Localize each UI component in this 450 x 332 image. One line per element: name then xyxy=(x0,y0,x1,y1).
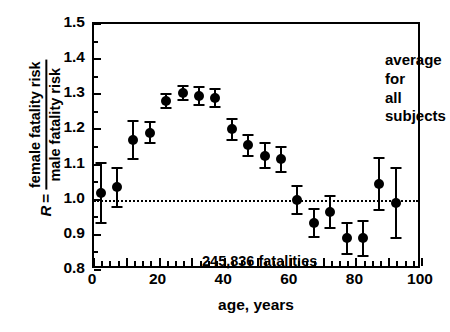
x-tick-minor xyxy=(101,261,103,266)
y-tick-label: 0.9 xyxy=(25,225,85,241)
error-bar-cap-upper xyxy=(161,93,172,95)
y-tick-minor xyxy=(94,181,98,183)
annotation-average-line2: all subjects xyxy=(385,89,446,127)
error-bar-cap-upper xyxy=(390,167,401,169)
data-point-marker xyxy=(276,154,286,164)
x-tick-minor xyxy=(175,261,177,266)
error-bar-cap-lower xyxy=(292,213,303,215)
x-tick-minor xyxy=(150,261,152,266)
data-point-marker xyxy=(210,93,220,103)
plot-area xyxy=(94,24,418,266)
x-tick-minor xyxy=(142,261,144,266)
error-bar-cap-lower xyxy=(177,99,188,101)
y-tick-label: 1.4 xyxy=(25,49,85,65)
y-axis-label-symbol: R xyxy=(38,205,55,216)
x-tick-major xyxy=(191,258,193,266)
x-tick-minor xyxy=(396,261,398,266)
error-bar-cap-lower xyxy=(275,171,286,173)
y-tick-minor xyxy=(94,76,98,78)
error-bar-cap-lower xyxy=(390,237,401,239)
x-tick-minor xyxy=(183,261,185,266)
annotation-average-subjects: average for all subjects xyxy=(385,51,446,126)
x-tick-label: 60 xyxy=(259,271,319,287)
error-bar-cap-upper xyxy=(128,120,139,122)
y-tick-minor xyxy=(94,111,98,113)
error-bar-cap-upper xyxy=(357,220,368,222)
error-bar-cap-lower xyxy=(161,107,172,109)
x-tick-minor xyxy=(339,261,341,266)
y-tick-major xyxy=(94,128,101,130)
data-point-marker xyxy=(309,218,319,228)
error-bar-cap-upper xyxy=(95,162,106,164)
x-tick-minor xyxy=(347,261,349,266)
y-tick-major xyxy=(94,93,101,95)
x-tick-minor xyxy=(413,261,415,266)
data-point-marker xyxy=(161,96,171,106)
x-tick-major xyxy=(126,258,128,266)
data-point-marker xyxy=(145,128,155,138)
data-point-marker xyxy=(96,188,106,198)
error-bar-cap-lower xyxy=(111,206,122,208)
data-point-marker xyxy=(325,207,335,217)
x-tick-major xyxy=(159,258,161,266)
error-bar-cap-lower xyxy=(357,255,368,257)
x-tick-minor xyxy=(167,261,169,266)
error-bar-cap-lower xyxy=(226,139,237,141)
annotation-fatalities-count: 245,836 fatalities xyxy=(202,253,317,269)
error-bar-cap-upper xyxy=(308,208,319,210)
error-bar-cap-lower xyxy=(259,167,270,169)
x-tick-major xyxy=(93,258,95,266)
error-bar-cap-lower xyxy=(144,142,155,144)
error-bar-cap-upper xyxy=(193,86,204,88)
x-tick-label: 20 xyxy=(128,271,188,287)
error-bar-cap-upper xyxy=(374,157,385,159)
x-tick-minor xyxy=(118,261,120,266)
y-tick-minor xyxy=(94,251,98,253)
x-tick-minor xyxy=(134,261,136,266)
y-tick-major xyxy=(94,234,101,236)
data-point-marker xyxy=(112,182,122,192)
error-bar-cap-lower xyxy=(341,253,352,255)
error-bar-cap-lower xyxy=(308,236,319,238)
error-bar-cap-upper xyxy=(259,142,270,144)
error-bar-cap-lower xyxy=(210,106,221,108)
data-point-marker xyxy=(128,135,138,145)
error-bar-cap-lower xyxy=(95,222,106,224)
x-axis-title: age, years xyxy=(92,296,420,314)
error-bar-cap-lower xyxy=(128,158,139,160)
y-tick-label: 1.2 xyxy=(25,119,85,135)
x-tick-minor xyxy=(372,261,374,266)
x-tick-label: 0 xyxy=(62,271,122,287)
x-tick-minor xyxy=(364,261,366,266)
data-point-marker xyxy=(292,195,302,205)
y-tick-minor xyxy=(94,146,98,148)
error-bar-cap-lower xyxy=(374,209,385,211)
x-tick-minor xyxy=(405,261,407,266)
y-tick-label: 1.5 xyxy=(25,14,85,30)
error-bar-cap-upper xyxy=(325,195,336,197)
data-point-marker xyxy=(391,198,401,208)
y-tick-label: 1.1 xyxy=(25,155,85,171)
error-bar-cap-lower xyxy=(325,227,336,229)
y-tick-label: 1.0 xyxy=(25,190,85,206)
error-bar-cap-upper xyxy=(210,88,221,90)
data-point-marker xyxy=(194,91,204,101)
x-tick-major xyxy=(323,258,325,266)
error-bar-cap-upper xyxy=(111,167,122,169)
y-tick-major xyxy=(94,23,101,25)
plot-frame: average for all subjects 245,836 fatalit… xyxy=(92,22,420,268)
reference-line-unity xyxy=(94,200,418,202)
x-tick-minor xyxy=(331,261,333,266)
x-tick-major xyxy=(421,258,423,266)
data-point-marker xyxy=(227,124,237,134)
error-bar-cap-lower xyxy=(193,104,204,106)
x-tick-minor xyxy=(109,261,111,266)
x-tick-major xyxy=(355,258,357,266)
data-point-marker xyxy=(243,140,253,150)
data-point-marker xyxy=(358,233,368,243)
error-bar-cap-upper xyxy=(341,222,352,224)
error-bar-cap-upper xyxy=(275,146,286,148)
data-point-marker xyxy=(342,233,352,243)
x-tick-major xyxy=(388,258,390,266)
